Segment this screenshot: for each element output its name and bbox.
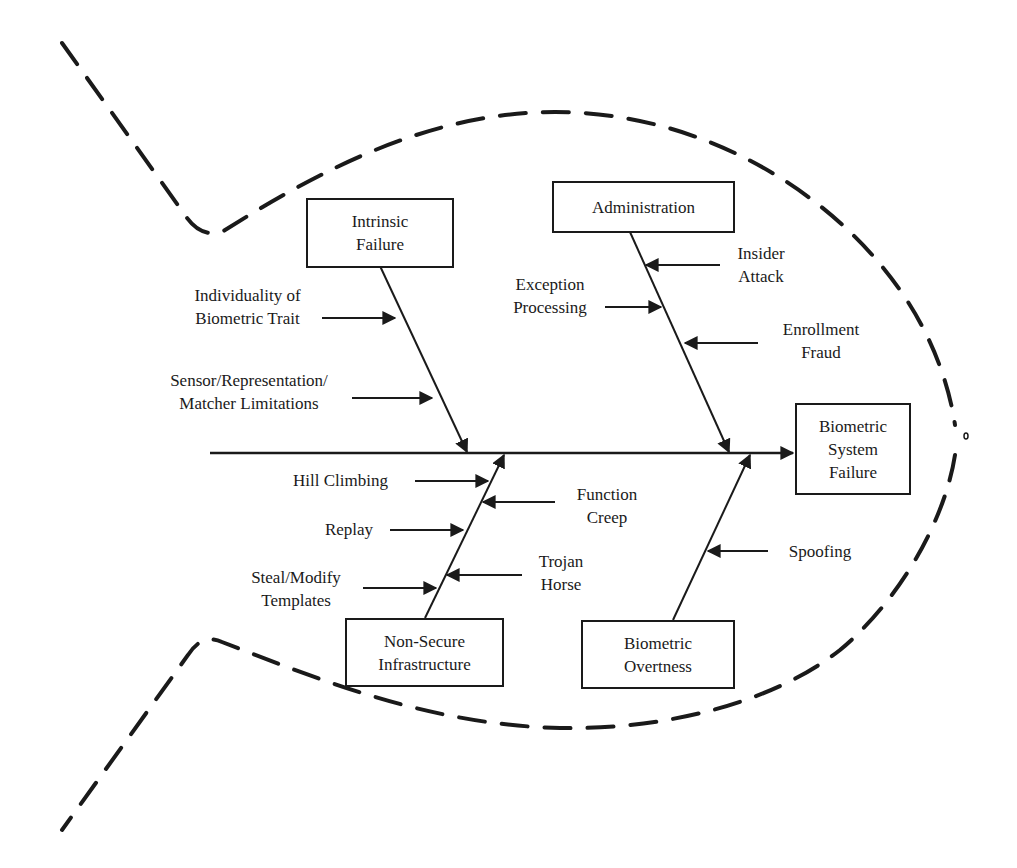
cause-trojan-horse: Trojan Horse (530, 550, 592, 596)
category-label: Administration (592, 196, 695, 219)
cause-insider-attack: Insider Attack (726, 242, 796, 288)
effect-box: Biometric System Failure (795, 403, 911, 495)
category-box-overtness: Biometric Overtness (581, 620, 735, 689)
category-label: Intrinsic Failure (352, 210, 409, 256)
bone-intrinsic (380, 266, 467, 452)
cause-function-creep: Function Creep (562, 483, 652, 529)
cause-replay: Replay (314, 518, 384, 541)
bone-infrastructure (425, 455, 504, 618)
cause-spoofing: Spoofing (775, 540, 865, 563)
category-label: Non-Secure Infrastructure (378, 630, 471, 676)
cause-individuality: Individuality of Biometric Trait (180, 284, 315, 330)
category-box-administration: Administration (552, 181, 735, 233)
cause-exception-processing: Exception Processing (502, 273, 598, 319)
cause-enrollment-fraud: Enrollment Fraud (772, 318, 870, 364)
category-box-infrastructure: Non-Secure Infrastructure (345, 618, 504, 687)
effect-label: Biometric System Failure (819, 415, 887, 484)
fish-eye (964, 433, 968, 439)
bone-overtness (673, 455, 750, 620)
cause-hill-climbing: Hill Climbing (278, 469, 403, 492)
category-box-intrinsic: Intrinsic Failure (306, 198, 454, 268)
category-label: Biometric Overtness (624, 632, 692, 678)
cause-steal-modify: Steal/Modify Templates (236, 566, 356, 612)
cause-sensor: Sensor/Representation/ Matcher Limitatio… (154, 369, 344, 415)
